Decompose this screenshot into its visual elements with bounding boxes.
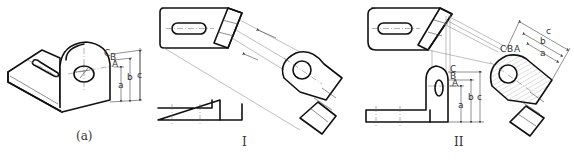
dim-label-c: c: [137, 70, 142, 80]
caption-a: (a): [76, 129, 93, 143]
dim-label-a: a: [118, 80, 124, 90]
point-label-c-aux: C: [500, 44, 506, 54]
caption-II: II: [454, 135, 464, 149]
dim-label-c-aux: c: [546, 26, 551, 36]
caption-I: I: [242, 135, 247, 149]
point-label-a: A: [112, 59, 119, 69]
technical-drawing: C B A a b c (a): [0, 0, 574, 160]
view-II: C B A a b c C B A c b a II: [366, 8, 570, 149]
isometric-view: C B A a b c (a): [8, 42, 142, 143]
view-I: I: [140, 8, 342, 149]
point-label-a-aux: A: [514, 44, 521, 54]
point-label-a-front: A: [452, 78, 459, 88]
dim-label-a-front: a: [458, 100, 464, 110]
dim-label-c-front: c: [477, 92, 482, 102]
dim-label-a-aux: a: [540, 48, 546, 58]
dim-label-b: b: [127, 72, 133, 82]
dim-label-b-aux: b: [540, 36, 546, 46]
dim-label-b-front: b: [468, 92, 474, 102]
